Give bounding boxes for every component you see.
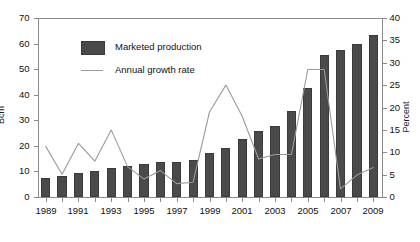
legend-label-annual-growth-rate: Annual growth rate	[115, 64, 195, 75]
growth-rate-polyline	[46, 70, 374, 189]
legend-label-marketed-production: Marketed production	[115, 41, 202, 52]
legend-swatch-annual-growth-rate	[81, 70, 103, 71]
chart-container: Bcm Percent 010203040506070 051015202530…	[0, 0, 420, 242]
line-series-annual-growth-rate	[0, 0, 420, 242]
legend-swatch-marketed-production	[81, 41, 105, 55]
